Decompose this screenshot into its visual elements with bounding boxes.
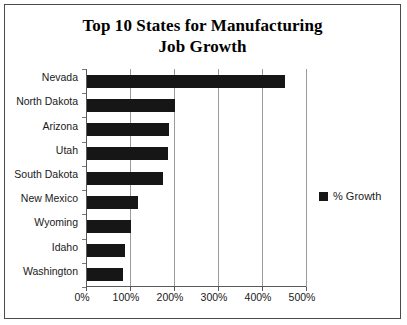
bar-utah[interactable] — [87, 147, 168, 160]
bar-row — [86, 123, 306, 136]
legend-label-pct-growth: % Growth — [333, 190, 381, 202]
plot-area — [86, 69, 306, 287]
y-tick — [82, 190, 86, 191]
x-tick-label-400%: 400% — [238, 291, 278, 303]
bar-south-dakota[interactable] — [87, 172, 163, 185]
gridline-500% — [306, 69, 307, 287]
bar-row — [86, 220, 306, 233]
y-tick — [82, 69, 86, 70]
chart-title-line-1: Top 10 States for Manufacturing — [5, 15, 400, 36]
legend: % Growth — [319, 190, 381, 202]
category-label-arizona: Arizona — [5, 120, 78, 132]
bar-row — [86, 75, 306, 88]
bar-row — [86, 172, 306, 185]
bar-idaho[interactable] — [87, 244, 125, 257]
y-tick — [82, 142, 86, 143]
chart-frame: Top 10 States for Manufacturing Job Grow… — [4, 4, 401, 319]
chart-title: Top 10 States for Manufacturing Job Grow… — [5, 15, 400, 57]
x-tick-label-300%: 300% — [194, 291, 234, 303]
x-axis-line — [86, 286, 306, 287]
x-tick-label-200%: 200% — [150, 291, 190, 303]
category-label-idaho: Idaho — [5, 241, 78, 253]
x-tick-label-0%: 0% — [62, 291, 102, 303]
bar-row — [86, 268, 306, 281]
y-tick — [82, 117, 86, 118]
category-label-south-dakota: South Dakota — [5, 168, 78, 180]
bar-row — [86, 196, 306, 209]
category-label-washington: Washington — [5, 265, 78, 277]
y-tick — [82, 239, 86, 240]
bar-row — [86, 244, 306, 257]
bar-row — [86, 99, 306, 112]
y-tick — [82, 263, 86, 264]
y-tick — [82, 166, 86, 167]
x-tick-label-100%: 100% — [106, 291, 146, 303]
y-tick — [82, 93, 86, 94]
bar-washington[interactable] — [87, 268, 123, 281]
category-label-north-dakota: North Dakota — [5, 95, 78, 107]
legend-swatch-pct-growth — [319, 192, 328, 201]
y-tick — [82, 287, 86, 288]
bar-nevada[interactable] — [87, 75, 285, 88]
bar-arizona[interactable] — [87, 123, 169, 136]
category-label-wyoming: Wyoming — [5, 216, 78, 228]
chart-title-line-2: Job Growth — [5, 36, 400, 57]
category-label-nevada: Nevada — [5, 71, 78, 83]
bar-wyoming[interactable] — [87, 220, 131, 233]
bar-north-dakota[interactable] — [87, 99, 175, 112]
x-tick-label-500%: 500% — [282, 291, 322, 303]
bar-row — [86, 147, 306, 160]
category-label-utah: Utah — [5, 144, 78, 156]
bar-new-mexico[interactable] — [87, 196, 138, 209]
y-tick — [82, 214, 86, 215]
category-label-new-mexico: New Mexico — [5, 192, 78, 204]
